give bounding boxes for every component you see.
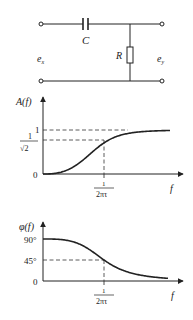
resistor-label: R	[115, 50, 122, 61]
input-voltage-label: ex	[37, 53, 44, 65]
rc-circuit: C R ex ey	[37, 18, 164, 83]
output-terminal-bottom	[160, 79, 164, 83]
phase-origin-label: 0	[33, 277, 38, 287]
phase-xtick-cutoff: 1 2πτ	[94, 287, 114, 306]
phase-ytick-90: 90°	[24, 235, 37, 245]
rc-highpass-diagram: C R ex ey A(f) f 0 1 1 √2	[0, 0, 193, 320]
input-terminal-top	[39, 22, 43, 26]
phase-x-axis-label: f	[171, 290, 175, 301]
amplitude-chart: A(f) f 0 1 1 √2 1 2πτ	[15, 96, 183, 199]
amp-ytick-1: 1	[35, 125, 40, 135]
amp-ytick-inv-sqrt2-num: 1	[28, 132, 32, 141]
phase-ytick-45: 45°	[24, 256, 37, 266]
amp-xtick-cutoff: 1 2πτ	[94, 180, 114, 199]
phase-xtick-cutoff-num: 1	[102, 287, 106, 295]
amp-ytick-inv-sqrt2-den: √2	[20, 144, 28, 153]
phase-y-axis-label: φ(f)	[19, 221, 35, 233]
phase-chart: φ(f) f 0 90° 45° 1 2πτ	[19, 221, 183, 306]
input-terminal-bottom	[39, 79, 43, 83]
phase-xtick-cutoff-den: 2πτ	[96, 297, 108, 306]
amp-curve	[43, 130, 170, 174]
phase-curve	[43, 239, 168, 278]
amp-xtick-cutoff-den: 2πτ	[96, 190, 108, 199]
output-terminal-top	[160, 22, 164, 26]
output-voltage-label: ey	[157, 53, 164, 65]
capacitor-icon	[83, 18, 88, 30]
amp-xtick-cutoff-num: 1	[102, 180, 106, 188]
resistor-icon	[127, 47, 133, 63]
capacitor-label: C	[82, 34, 90, 46]
amp-x-axis-label: f	[170, 183, 174, 194]
amp-origin-label: 0	[33, 170, 38, 180]
amp-ytick-inv-sqrt2: 1 √2	[20, 132, 38, 153]
amp-y-axis-label: A(f)	[15, 96, 32, 108]
